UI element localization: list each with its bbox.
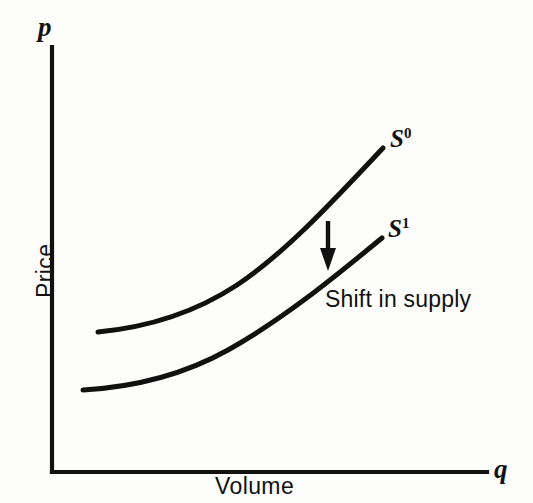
shift-arrow-head xyxy=(320,248,336,271)
y-axis-title: Price xyxy=(34,244,57,298)
shift-arrow xyxy=(320,221,336,271)
supply-shift-diagram: p q Price Volume S0 S1 Shift in supply xyxy=(0,0,533,503)
curve-label-s0-base: S xyxy=(390,125,404,152)
shift-annotation-label: Shift in supply xyxy=(325,288,471,311)
x-axis-title: Volume xyxy=(215,475,294,498)
curve-label-s1: S1 xyxy=(388,216,409,241)
supply-curve-s1 xyxy=(83,238,382,390)
curve-label-s1-base: S xyxy=(388,215,402,242)
x-axis-variable-label: q xyxy=(494,456,508,483)
diagram-canvas xyxy=(0,0,533,503)
curve-label-s0: S0 xyxy=(390,126,411,151)
y-axis-variable-label: p xyxy=(38,14,52,41)
curve-label-s1-superscript: 1 xyxy=(402,215,410,231)
curve-label-s0-superscript: 0 xyxy=(404,125,412,141)
